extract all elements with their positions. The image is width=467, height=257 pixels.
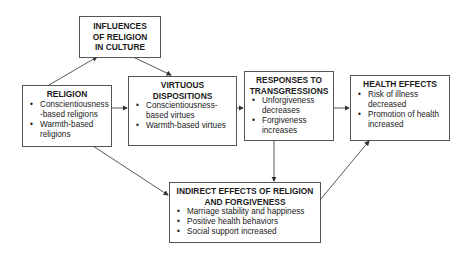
node-title: VIRTUOUS DISPOSITIONS	[133, 80, 232, 101]
title-line: DISPOSITIONS	[133, 91, 232, 102]
arrow-indirect-to-health	[320, 141, 369, 200]
arrow-influences-to-virtuous	[133, 57, 171, 75]
node-title: RELIGION	[27, 89, 107, 100]
title-line: VIRTUOUS	[133, 80, 232, 91]
title-line: IN CULTURE	[84, 42, 156, 53]
node-title: HEALTH EFFECTS	[355, 79, 445, 90]
title-line: RESPONSES TO	[249, 75, 329, 86]
node-responses-to-transgressions: RESPONSES TO TRANSGRESSIONS Unforgivenes…	[244, 71, 334, 141]
arrow-religion-to-indirect	[93, 146, 168, 195]
title-line: AND FORGIVENESS	[174, 197, 316, 208]
node-indirect-effects: INDIRECT EFFECTS OF RELIGION AND FORGIVE…	[169, 182, 321, 243]
list-item: Unforgiveness decreases	[249, 96, 329, 116]
list-item: Warmth-based virtues	[133, 121, 232, 131]
list-item: Marriage stability and happiness	[174, 207, 316, 217]
node-influences: INFLUENCES OF RELIGION IN CULTURE	[79, 16, 161, 58]
list-item: Positive health behaviors	[174, 217, 316, 227]
title-line: INFLUENCES	[84, 21, 156, 32]
list-item: Conscientiousness -based religions	[27, 100, 107, 120]
node-virtuous-dispositions: VIRTUOUS DISPOSITIONS Conscientiousness-…	[128, 76, 237, 146]
title-line: OF RELIGION	[84, 32, 156, 43]
list-item: Forgiveness increases	[249, 116, 329, 136]
node-title: INFLUENCES OF RELIGION IN CULTURE	[84, 21, 156, 53]
list-item: Conscientiousness-based virtues	[133, 101, 232, 121]
node-title: INDIRECT EFFECTS OF RELIGION AND FORGIVE…	[174, 186, 316, 207]
arrow-religion-to-influences	[49, 57, 97, 85]
node-religion: RELIGION Conscientiousness -based religi…	[22, 85, 112, 147]
list-item: Social support increased	[174, 227, 316, 237]
node-health-effects: HEALTH EFFECTS Risk of illness decreased…	[350, 75, 450, 141]
node-title: RESPONSES TO TRANSGRESSIONS	[249, 75, 329, 96]
list-item: Risk of illness decreased	[355, 90, 445, 110]
title-line: INDIRECT EFFECTS OF RELIGION	[174, 186, 316, 197]
list-item: Promotion of health increased	[355, 110, 445, 130]
list-item: Warmth-based religions	[27, 120, 107, 140]
title-line: TRANSGRESSIONS	[249, 86, 329, 97]
